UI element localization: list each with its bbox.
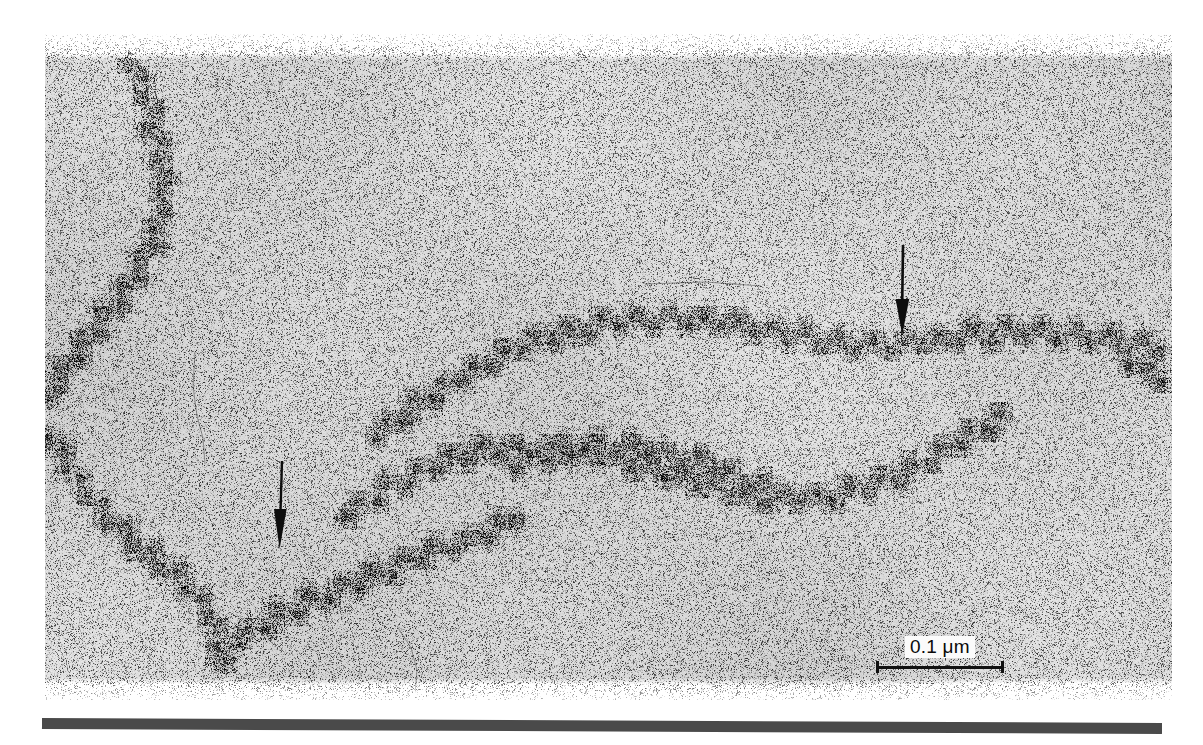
scale-bar: 0.1 μm [874,636,1006,680]
bottom-rule [42,718,1162,734]
micrograph-image [45,34,1172,700]
micrograph-plate [45,34,1172,700]
scale-bar-tick-left [876,661,879,673]
scale-bar-line [876,666,1004,669]
scale-bar-tick-right [1001,661,1004,673]
scale-bar-label-box: 0.1 μm [905,636,975,658]
scale-bar-label: 0.1 μm [910,636,970,657]
figure-root: 0.1 μm [0,0,1203,745]
